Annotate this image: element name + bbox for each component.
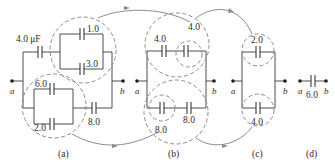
cap-label-4-left: 4.0 (154, 34, 166, 44)
terminal-b-label: b (283, 86, 288, 96)
caption-d: (d) (306, 149, 317, 160)
terminal-b-label: b (212, 86, 217, 96)
cap-label-2: 2.0 (34, 123, 46, 133)
arrowhead (124, 6, 130, 10)
group-circle-bottom (144, 80, 208, 144)
panel-b: a 4.0 4.0 8.0 8.0 b (b) (135, 13, 217, 160)
arrowhead (222, 144, 228, 148)
caption-c: (c) (252, 149, 263, 160)
cap-label-3: 3.0 (86, 59, 98, 69)
cap-label-6: 6.0 (306, 90, 318, 100)
arrow-top-a-to-b (98, 10, 190, 22)
panel-d: a b 6.0 (d) (298, 75, 329, 160)
terminal-b-label: b (120, 86, 125, 96)
terminal-b-label: b (324, 86, 329, 96)
caption-b: (b) (168, 149, 179, 160)
arrow-bottom-a-to-b (72, 132, 158, 145)
cap-label-8-right: 8.0 (183, 115, 195, 125)
cap-label-4uF: 4.0 μF (16, 34, 41, 44)
cap-label-1: 1.0 (87, 24, 99, 34)
group-circle-top (145, 13, 209, 77)
terminal-b-dot (212, 79, 216, 83)
cap-label-8-left: 8.0 (155, 125, 167, 135)
terminal-a-label: a (231, 86, 236, 96)
cap-label-8: 8.0 (88, 117, 100, 127)
panel-c: a 2.0 4.0 b (c) (231, 34, 288, 160)
capacitor-reduction-diagram: a 4.0 μF 1.0 3.0 b 6.0 (0, 0, 335, 168)
terminal-a-label: a (135, 86, 140, 96)
cap-label-4-right: 4.0 (188, 22, 200, 32)
terminal-b-dot (324, 79, 328, 83)
cap-label-2: 2.0 (251, 35, 263, 45)
cap-label-6: 6.0 (35, 79, 47, 89)
terminal-a-label: a (10, 86, 15, 96)
group-circle-top-inner (176, 41, 202, 67)
panel-a: a 4.0 μF 1.0 3.0 b 6.0 (10, 17, 125, 160)
caption-a: (a) (58, 149, 69, 160)
arrow-top-b-to-c (196, 10, 252, 34)
terminal-a-label: a (298, 86, 303, 96)
terminal-b-dot (121, 79, 125, 83)
terminal-b-dot (283, 79, 287, 83)
arrow-bottom-b-to-c (196, 127, 252, 145)
terminal-a-dot (10, 79, 14, 83)
